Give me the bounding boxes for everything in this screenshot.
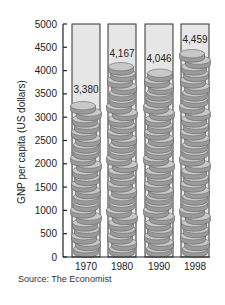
y-tick-label: 2000 bbox=[35, 158, 58, 169]
x-tick-label: 1990 bbox=[148, 261, 171, 272]
y-tick-label: 5000 bbox=[35, 19, 58, 30]
y-tick-label: 1000 bbox=[35, 205, 58, 216]
column-1998: 4,459 bbox=[180, 24, 211, 257]
column-1970: 3,380 bbox=[71, 24, 102, 257]
y-tick-label: 4500 bbox=[35, 42, 58, 53]
y-tick-label: 1500 bbox=[35, 182, 58, 193]
x-tick-label: 1980 bbox=[111, 261, 134, 272]
value-label: 4,167 bbox=[109, 48, 134, 59]
y-axis-label: GNP per capita (US dollars) bbox=[16, 80, 27, 204]
x-axis: 1970198019901998 bbox=[63, 257, 210, 272]
y-axis: 0500100015002000250030003500400045005000 bbox=[35, 19, 67, 263]
y-tick-label: 2500 bbox=[35, 135, 58, 146]
value-label: 4,459 bbox=[182, 34, 207, 45]
y-tick-label: 500 bbox=[40, 228, 57, 239]
column-1980: 4,167 bbox=[106, 24, 137, 257]
source-note: Source: The Economist bbox=[18, 274, 111, 284]
y-tick-label: 0 bbox=[51, 252, 57, 263]
y-tick-label: 3000 bbox=[35, 112, 58, 123]
gnp-coin-chart: 0500100015002000250030003500400045005000… bbox=[0, 0, 225, 305]
value-label: 4,046 bbox=[146, 53, 171, 64]
column-1990: 4,046 bbox=[144, 24, 175, 257]
x-tick-label: 1998 bbox=[184, 261, 207, 272]
y-tick-label: 3500 bbox=[35, 88, 58, 99]
x-tick-label: 1970 bbox=[75, 261, 98, 272]
columns: 3,3804,1674,0464,459 bbox=[71, 24, 211, 257]
value-label: 3,380 bbox=[73, 84, 98, 95]
y-tick-label: 4000 bbox=[35, 65, 58, 76]
